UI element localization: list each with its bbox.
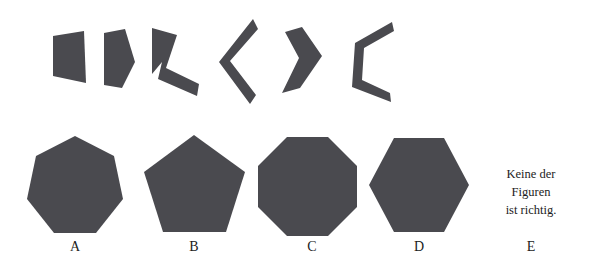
option-label-d: D: [399, 240, 439, 254]
piece-4-thin-chevron-left: [219, 19, 258, 104]
piece-6-open-bracket-c: [352, 22, 394, 102]
option-c-octagon[interactable]: [258, 137, 357, 236]
option-b-pentagon[interactable]: [144, 135, 245, 232]
piece-5-thick-chevron-right: [282, 27, 322, 93]
figures-canvas: [0, 0, 592, 267]
option-a-heptagon[interactable]: [27, 136, 123, 233]
options-row: [27, 135, 469, 236]
option-e-line-3: ist richtig.: [493, 202, 569, 220]
piece-2-pentagon-wedge: [104, 29, 135, 88]
option-label-e: E: [511, 240, 551, 254]
option-e-line-1: Keine der: [493, 166, 569, 184]
figure-assembly-page: Keine der Figuren ist richtig. A B C D E: [0, 0, 592, 267]
piece-1-quadrilateral: [53, 31, 86, 83]
option-label-a: A: [55, 240, 95, 254]
option-label-b: B: [174, 240, 214, 254]
option-d-hexagon[interactable]: [369, 138, 469, 232]
pieces-row: [53, 19, 394, 104]
option-label-c: C: [292, 240, 332, 254]
piece-3-bent-L-strip: [152, 28, 199, 96]
option-e-line-2: Figuren: [493, 184, 569, 202]
option-e-text-block[interactable]: Keine der Figuren ist richtig.: [493, 166, 569, 219]
